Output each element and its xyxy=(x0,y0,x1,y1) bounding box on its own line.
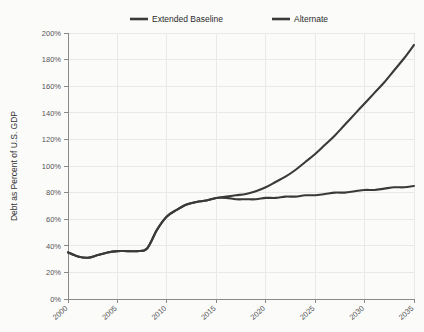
legend-label-extended-baseline: Extended Baseline xyxy=(152,14,223,24)
y-tick-label: 100% xyxy=(42,162,62,171)
y-tick-label: 60% xyxy=(46,215,61,224)
legend-label-alternate: Alternate xyxy=(294,14,328,24)
debt-projection-chart: Extended BaselineAlternate 0%20%40%60%80… xyxy=(0,0,424,332)
y-tick-label: 160% xyxy=(42,82,62,91)
y-tick-label: 40% xyxy=(46,242,61,251)
y-tick-label: 80% xyxy=(46,188,61,197)
y-tick-label: 20% xyxy=(46,268,61,277)
y-tick-label: 180% xyxy=(42,55,62,64)
y-tick-label: 120% xyxy=(42,135,62,144)
chart-canvas: Extended BaselineAlternate 0%20%40%60%80… xyxy=(0,0,424,332)
y-axis-title: Debt as Percent of U.S. GDP xyxy=(9,111,19,221)
y-tick-label: 140% xyxy=(42,109,62,118)
y-tick-label: 200% xyxy=(42,29,62,38)
y-tick-label: 0% xyxy=(50,295,61,304)
